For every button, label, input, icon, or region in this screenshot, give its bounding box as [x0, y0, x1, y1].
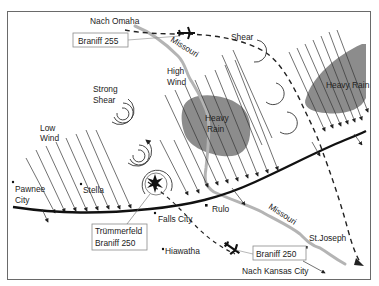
label-shear: Shear: [231, 32, 254, 42]
label-high-wind-line1: High: [167, 66, 185, 76]
label-missouri-north: Missouri: [169, 34, 201, 59]
shear-vortex-2: [128, 140, 152, 166]
label-truemmerfeld-line1: Trümmerfeld: [95, 226, 142, 236]
label-strong-shear-line1: Strong: [93, 84, 118, 94]
label-pawnee-city-line2: City: [15, 195, 30, 205]
label-strong-shear-line2: Shear: [93, 95, 116, 105]
label-braniff-250: Braniff 250: [256, 249, 297, 259]
label-low-wind-line2: Wind: [40, 133, 59, 143]
crash-site: [142, 170, 172, 195]
airplane-icon-braniff-250: [221, 238, 243, 258]
label-pawnee-city-line1: Pawnee: [15, 184, 46, 194]
label-heavy-rain-center-line1: Heavy: [205, 113, 230, 123]
weather-diagram: Nach Omaha Braniff 255 Missouri Shear Hi…: [0, 0, 379, 286]
label-braniff-255: Braniff 255: [78, 36, 119, 46]
label-heavy-rain-east: Heavy Rain: [326, 80, 370, 90]
label-rulo: Rulo: [212, 204, 230, 214]
label-st-joseph: St.Joseph: [309, 233, 347, 243]
heavy-rain-area-east: [305, 44, 366, 113]
label-heavy-rain-center-line2: Rain: [207, 124, 225, 134]
label-hiawatha: Hiawatha: [165, 246, 200, 256]
label-truemmerfeld-line2: Braniff 250: [95, 238, 136, 248]
shear-circles-east: [254, 40, 297, 134]
label-nach-kansas-city: Nach Kansas City: [242, 266, 309, 276]
label-low-wind-line1: Low: [40, 123, 56, 133]
label-high-wind-line2: Wind: [167, 77, 186, 87]
label-falls-city: Falls City: [158, 214, 193, 224]
label-nach-omaha: Nach Omaha: [90, 16, 140, 26]
label-stella: Stella: [83, 185, 104, 195]
